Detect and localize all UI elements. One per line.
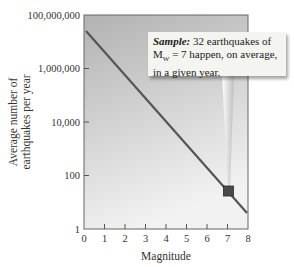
x-tick-label: 6	[204, 233, 209, 244]
x-tick-label: 8	[245, 233, 250, 244]
callout-text-2a: M	[153, 48, 163, 60]
x-tick-label: 2	[122, 233, 127, 244]
x-axis-title: Magnitude	[141, 250, 191, 263]
x-tick-label: 7	[225, 233, 230, 244]
annotation-callout: Sample: 32 earthquakes of MW = 7 happen,…	[148, 32, 286, 76]
callout-text-3: in a given year.	[153, 66, 281, 79]
y-tick-label: 10,000	[51, 117, 80, 128]
y-tick-label: 100	[64, 170, 80, 181]
x-tick-label: 3	[143, 233, 148, 244]
callout-text-1: 32 earthquakes of	[190, 35, 271, 47]
y-axis-title-line2: earthquakes per year	[20, 74, 33, 169]
callout-label: Sample:	[153, 35, 190, 47]
y-tick-label: 1	[75, 224, 80, 235]
x-tick-label: 0	[81, 233, 86, 244]
callout-text-2b: = 7 happen, on average,	[169, 48, 277, 60]
x-tick-label: 1	[102, 233, 107, 244]
highlight-marker	[224, 186, 234, 196]
y-axis-title-line1: Average number of	[7, 78, 20, 167]
y-tick-label: 100,000,000	[28, 10, 81, 21]
x-tick-label: 4	[163, 233, 169, 244]
x-tick-label: 5	[184, 233, 189, 244]
y-tick-label: 1,000,000	[38, 63, 80, 74]
